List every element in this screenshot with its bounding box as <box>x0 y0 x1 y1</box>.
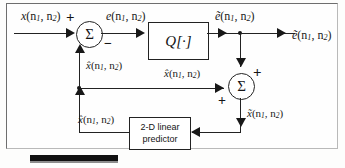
wire-output <box>240 33 295 34</box>
arrowhead-into-quantizer <box>136 28 145 38</box>
summing-junction-2: Σ <box>228 73 255 100</box>
wire-predictor-out <box>79 132 129 133</box>
sign-sum2-plus-top: + <box>253 64 262 81</box>
label-prediction-output: x̂(n1, n2) <box>78 114 114 126</box>
wire-reconstructed-down <box>240 98 241 133</box>
predictor-label-line1: 2-D linear <box>140 122 179 132</box>
label-quantized-error: ẽ(n1, n2) <box>215 10 254 24</box>
wire-error <box>101 33 138 34</box>
quantizer-label: Q[·] <box>165 33 191 50</box>
label-reconstructed-signal: x̃(n1, n2) <box>247 108 283 120</box>
sum2-sigma: Σ <box>237 78 246 95</box>
predictor-block: 2-D linear predictor <box>129 117 191 150</box>
label-quantized-error-output: ẽ(n1, n2) <box>292 29 331 43</box>
arrowhead-into-sum1-bottom <box>75 44 85 53</box>
wire-input <box>14 33 69 34</box>
sign-sum2-plus-left: + <box>218 93 226 109</box>
arrowhead-into-sum2-left <box>215 83 224 93</box>
label-prediction-mid: x̂(n1, n2) <box>164 68 200 80</box>
quantizer-block: Q[·] <box>148 22 209 60</box>
arrowhead-into-sum1 <box>66 28 75 38</box>
label-prediction-feedback: x̂(n1, n2) <box>86 60 122 72</box>
label-error-signal: e(n1, n2) <box>106 10 145 24</box>
arrowhead-into-sum2-top <box>236 58 246 67</box>
sum1-sigma: Σ <box>85 26 94 43</box>
wire-prediction-to-sum2 <box>79 88 224 89</box>
predictor-label-line2: predictor <box>142 134 177 144</box>
sign-sum1-minus: − <box>104 36 112 52</box>
figure-canvas: Σ Q[·] Σ 2-D linear predictor + − + + x(… <box>0 0 345 168</box>
scan-artifact-shadow <box>30 161 118 163</box>
label-input-signal: x(n1, n2) <box>21 10 60 24</box>
arrowhead-quantized-error <box>218 28 227 38</box>
arrowhead-predictor-to-junction <box>75 86 85 95</box>
sign-sum1-plus: + <box>66 9 75 26</box>
arrowhead-output <box>277 28 286 38</box>
arrowhead-into-predictor <box>191 127 200 137</box>
arrowhead-reconstructed-down <box>236 118 246 127</box>
